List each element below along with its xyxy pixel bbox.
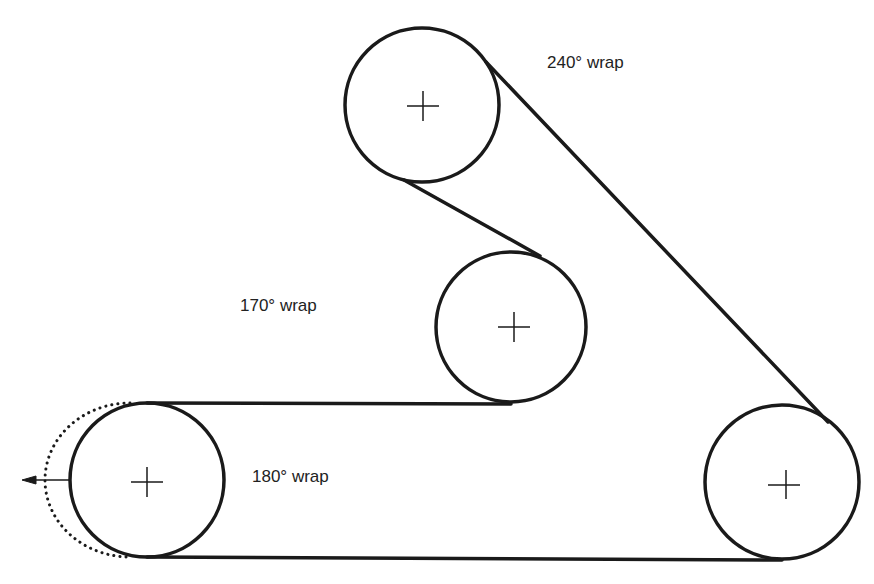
pulley-top [345, 28, 499, 182]
label-170-wrap: 170° wrap [240, 296, 317, 316]
label-240-wrap: 240° wrap [547, 53, 624, 73]
center-cross-icon [131, 467, 163, 497]
center-cross-icon [768, 470, 800, 499]
belt-span-top-to-right [486, 62, 828, 422]
arrow-left-icon [22, 476, 70, 484]
belt-span-left-to-right-bottom [147, 557, 782, 560]
pulley-bottom-right [705, 405, 859, 559]
center-cross-icon [498, 312, 530, 342]
belt-drawing [0, 0, 874, 584]
center-cross-icon [407, 91, 439, 121]
belt-diagram: 240° wrap 170° wrap 180° wrap [0, 0, 874, 584]
label-180-wrap: 180° wrap [252, 467, 329, 487]
belt-span-top-to-middle [404, 180, 540, 256]
belt-span-middle-to-left [147, 403, 511, 404]
